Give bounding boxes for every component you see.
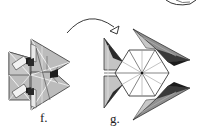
step-label-g: g. bbox=[110, 112, 120, 125]
partial-previous-arrow bbox=[166, 0, 196, 5]
curved-arrow bbox=[67, 19, 119, 34]
step-label-f: f. bbox=[40, 111, 48, 124]
arrowhead-icon bbox=[110, 26, 119, 34]
diagram-canvas: f. g. bbox=[0, 0, 200, 139]
origami-diagram bbox=[0, 0, 200, 139]
figure-f bbox=[9, 39, 70, 110]
center-point bbox=[141, 72, 144, 75]
figure-g bbox=[104, 29, 190, 120]
